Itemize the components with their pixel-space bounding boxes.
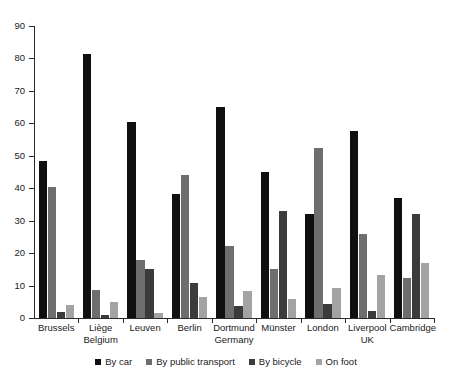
bar: [359, 234, 367, 318]
bar: [199, 297, 207, 318]
x-axis-label: London: [301, 322, 345, 334]
bar: [190, 283, 198, 318]
legend-item-label: By bicycle: [259, 356, 302, 368]
x-axis-label-city: Münster: [261, 322, 295, 333]
bar: [323, 304, 331, 318]
y-tick-label: 30: [0, 214, 25, 227]
bar-group: [390, 26, 434, 318]
bar: [216, 107, 224, 318]
bar: [279, 211, 287, 318]
bar-group-bars: [34, 26, 78, 318]
y-tick-label: 70: [0, 84, 25, 97]
x-axis-label: Berlin: [167, 322, 211, 334]
bar: [225, 246, 233, 318]
bar: [288, 299, 296, 318]
bar: [127, 122, 135, 318]
bar: [92, 290, 100, 318]
bar-group-bars: [390, 26, 434, 318]
bar-group: [345, 26, 389, 318]
bar-group: [301, 26, 345, 318]
bar-group: [256, 26, 300, 318]
bar-group-bars: [167, 26, 211, 318]
bar: [403, 278, 411, 318]
bar-group-bars: [78, 26, 122, 318]
legend-item[interactable]: On foot: [316, 356, 357, 368]
y-tick-label: 0: [0, 311, 25, 324]
x-axis-label-city: Berlin: [177, 322, 201, 333]
x-axis-label: LiverpoolUK: [345, 322, 389, 346]
x-axis-label-city: Cambridge: [390, 322, 436, 333]
bar-group: [78, 26, 122, 318]
x-axis-label: Münster: [256, 322, 300, 334]
y-tick-label: 60: [0, 116, 25, 129]
bar-group-bars: [301, 26, 345, 318]
plot-area: [34, 26, 434, 318]
bar-group-bars: [256, 26, 300, 318]
x-axis-label-city: Brussels: [38, 322, 74, 333]
x-axis-label: Cambridge: [390, 322, 434, 334]
bar: [110, 302, 118, 318]
y-tick-label: 20: [0, 246, 25, 259]
bar: [136, 260, 144, 318]
bar: [377, 275, 385, 318]
bar: [57, 312, 65, 318]
bar: [66, 305, 74, 318]
y-tick-label: 50: [0, 149, 25, 162]
bar: [83, 54, 91, 318]
x-axis-label-city: Liège: [89, 322, 112, 333]
chart-legend: By carBy public transportBy bicycleOn fo…: [0, 356, 452, 368]
legend-item-label: By public transport: [156, 356, 235, 368]
legend-item[interactable]: By car: [95, 356, 132, 368]
x-axis-label-country: Germany: [212, 334, 256, 346]
x-axis-label-city: Liverpool: [348, 322, 387, 333]
bar-chart: 0102030405060708090 BrusselsLiègeBelgium…: [0, 0, 452, 380]
x-axis-label: DortmundGermany: [212, 322, 256, 346]
legend-item-label: On foot: [326, 356, 357, 368]
x-axis-label-city: Leuven: [130, 322, 161, 333]
bar: [270, 269, 278, 318]
bar: [243, 291, 251, 318]
bar: [412, 214, 420, 318]
x-axis-label: Leuven: [123, 322, 167, 334]
y-tick-mark: [29, 318, 34, 319]
legend-swatch-icon: [146, 359, 152, 365]
bar-group-bars: [345, 26, 389, 318]
bar: [48, 187, 56, 318]
bar-group-bars: [123, 26, 167, 318]
bar: [154, 313, 162, 319]
bar-group: [34, 26, 78, 318]
x-axis-label: LiègeBelgium: [78, 322, 122, 346]
bar: [145, 269, 153, 318]
bar: [421, 263, 429, 318]
x-axis-label-country: Belgium: [78, 334, 122, 346]
bar: [181, 175, 189, 318]
bar: [314, 148, 322, 318]
bar: [368, 311, 376, 318]
bar: [39, 161, 47, 318]
legend-swatch-icon: [316, 359, 322, 365]
y-tick-label: 40: [0, 181, 25, 194]
bar: [350, 131, 358, 318]
bar: [101, 315, 109, 318]
legend-item[interactable]: By bicycle: [249, 356, 302, 368]
x-axis-label-city: London: [307, 322, 339, 333]
bar: [332, 288, 340, 318]
y-tick-label: 90: [0, 19, 25, 32]
legend-item-label: By car: [105, 356, 132, 368]
bar-group: [167, 26, 211, 318]
bar-group-bars: [212, 26, 256, 318]
x-axis-line: [34, 318, 435, 319]
bar: [261, 172, 269, 318]
bar: [305, 214, 313, 318]
bar: [234, 306, 242, 318]
bar: [172, 194, 180, 318]
legend-swatch-icon: [95, 359, 101, 365]
y-tick-label: 80: [0, 51, 25, 64]
legend-item[interactable]: By public transport: [146, 356, 235, 368]
x-axis-label-country: UK: [345, 334, 389, 346]
bar-group: [123, 26, 167, 318]
bar: [394, 198, 402, 318]
x-axis-label-city: Dortmund: [213, 322, 255, 333]
legend-swatch-icon: [249, 359, 255, 365]
y-tick-label: 10: [0, 279, 25, 292]
